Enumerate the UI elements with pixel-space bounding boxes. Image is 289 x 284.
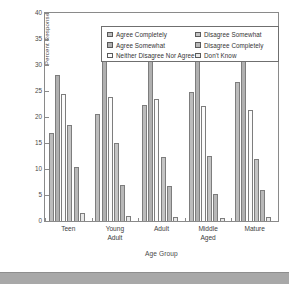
legend-swatch <box>107 32 113 38</box>
legend-entry: Disagree Completely <box>195 40 263 50</box>
legend-label: Agree Completely <box>116 31 167 38</box>
bar <box>220 218 225 221</box>
bar <box>148 39 153 221</box>
bar <box>154 99 159 221</box>
bottom-band <box>0 272 289 284</box>
y-tick-label: 35 <box>35 35 42 42</box>
bar <box>241 44 246 221</box>
bar <box>161 157 166 221</box>
bar <box>49 133 54 221</box>
x-category-label: Young Adult <box>92 225 139 242</box>
y-tick-label: 30 <box>35 61 42 68</box>
legend-label: Disagree Completely <box>204 42 263 49</box>
legend-entry: Don't Know <box>195 51 263 61</box>
legend-box: Agree CompletelyAgree SomewhatNeither Di… <box>101 26 279 62</box>
legend-label: Agree Somewhat <box>116 42 165 49</box>
y-tick-label: 5 <box>38 191 42 198</box>
legend-label: Disagree Somewhat <box>204 31 262 38</box>
bar <box>201 106 206 221</box>
bar <box>195 37 200 221</box>
bar <box>254 159 259 221</box>
x-axis-title: Age Group <box>44 250 279 257</box>
legend-entry: Disagree Somewhat <box>195 30 263 40</box>
legend-entry: Neither Disagree Nor Agree <box>107 51 195 61</box>
bar <box>213 194 218 221</box>
legend-swatch <box>107 42 113 48</box>
bar <box>173 217 178 221</box>
legend-column-left: Agree CompletelyAgree SomewhatNeither Di… <box>107 30 195 62</box>
x-category-label: Adult <box>138 225 185 234</box>
legend-swatch <box>195 53 201 59</box>
x-category-label: Mature <box>231 225 278 234</box>
bar <box>102 51 107 221</box>
x-category-label: Teen <box>45 225 92 234</box>
bar <box>67 125 72 221</box>
x-tick-mark <box>92 218 93 222</box>
x-tick-mark <box>278 218 279 222</box>
legend-label: Don't Know <box>204 52 237 59</box>
legend-entry: Agree Somewhat <box>107 40 195 50</box>
legend-swatch <box>107 53 113 59</box>
x-category-label: Middle Aged <box>185 225 232 242</box>
y-tick-label: 15 <box>35 139 42 146</box>
bar <box>167 186 172 221</box>
bar <box>142 105 147 221</box>
legend-column-right: Disagree SomewhatDisagree CompletelyDon'… <box>195 30 263 62</box>
legend-swatch <box>195 32 201 38</box>
x-tick-mark <box>185 218 186 222</box>
legend-label: Neither Disagree Nor Agree <box>116 52 195 59</box>
bar <box>120 185 125 221</box>
y-tick-label: 25 <box>35 87 42 94</box>
bar <box>126 216 131 221</box>
bar <box>74 167 79 221</box>
bar <box>189 92 194 221</box>
y-tick-label: 0 <box>38 217 42 224</box>
bar <box>207 156 212 221</box>
bar <box>61 94 66 221</box>
bar <box>260 190 265 221</box>
legend-entry: Agree Completely <box>107 30 195 40</box>
bar <box>95 114 100 221</box>
y-tick-label: 10 <box>35 165 42 172</box>
bar <box>55 75 60 221</box>
plot-area: Percent Response 0510152025303540 TeenYo… <box>44 12 279 222</box>
x-tick-mark <box>138 218 139 222</box>
y-tick-label: 40 <box>35 9 42 16</box>
bar <box>266 217 271 221</box>
bar <box>80 213 85 221</box>
bar <box>248 110 253 221</box>
bar <box>114 143 119 221</box>
bar <box>235 82 240 221</box>
x-tick-mark <box>231 218 232 222</box>
bar <box>108 97 113 221</box>
y-tick-label: 20 <box>35 113 42 120</box>
legend-swatch <box>195 42 201 48</box>
x-tick-mark <box>45 218 46 222</box>
